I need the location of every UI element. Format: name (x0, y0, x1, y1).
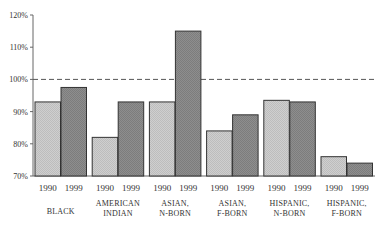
y-tick-label: 80% (13, 140, 28, 149)
category-label: ASIAN, (219, 199, 247, 208)
bar-1999 (118, 102, 144, 176)
category-label: F-BORN (217, 209, 248, 218)
category-label: INDIAN (103, 209, 133, 218)
bars (35, 31, 373, 176)
category-label: AMERICAN (96, 199, 140, 208)
y-tick-label: 120% (9, 11, 28, 20)
bar-1999 (347, 163, 373, 176)
year-label: 1999 (351, 183, 370, 193)
category-label: N-BORN (274, 209, 306, 218)
year-label: 1990 (39, 183, 58, 193)
year-label: 1999 (236, 183, 255, 193)
y-tick-label: 70% (13, 172, 28, 181)
bar-1990 (149, 102, 175, 176)
category-label: ASIAN, (161, 199, 189, 208)
bar-1999 (175, 31, 201, 176)
year-label: 1999 (65, 183, 84, 193)
year-label: 1990 (96, 183, 115, 193)
year-label: 1999 (179, 183, 198, 193)
bar-1999 (61, 87, 87, 176)
bar-1990 (264, 100, 290, 176)
bar-1990 (92, 137, 118, 176)
category-label: BLACK (47, 207, 75, 216)
year-label: 1990 (153, 183, 172, 193)
category-label: N-BORN (159, 209, 191, 218)
bar-1990 (207, 131, 233, 176)
y-tick-label: 110% (10, 43, 29, 52)
year-label: 1990 (210, 183, 229, 193)
bar-1990 (35, 102, 61, 176)
y-tick-label: 90% (13, 108, 28, 117)
year-label: 1990 (268, 183, 287, 193)
year-label: 1990 (325, 183, 344, 193)
axis-labels: 19901999BLACK19901999AMERICANINDIAN19901… (39, 183, 370, 218)
bar-1999 (290, 102, 316, 176)
bar-chart: 70%80%90%100%110%120% 19901999BLACK19901… (0, 0, 383, 229)
y-tick-label: 100% (9, 75, 28, 84)
category-label: HISPANIC, (327, 199, 367, 208)
bar-1990 (321, 157, 347, 176)
year-label: 1999 (294, 183, 313, 193)
bar-1999 (233, 115, 259, 176)
year-label: 1999 (122, 183, 141, 193)
category-label: HISPANIC, (270, 199, 310, 208)
category-label: F-BORN (331, 209, 362, 218)
